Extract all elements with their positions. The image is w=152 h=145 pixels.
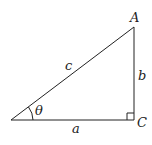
right-triangle-diagram: A C b a c θ [0, 0, 152, 145]
side-label-a: a [72, 121, 80, 136]
side-label-b: b [138, 68, 146, 83]
vertex-label-a: A [129, 10, 139, 25]
triangle [11, 27, 134, 120]
side-c-line [11, 27, 134, 120]
side-label-c: c [65, 58, 73, 73]
angle-theta-arc [29, 107, 34, 120]
angle-label-theta: θ [35, 103, 43, 118]
right-angle-marker [127, 113, 134, 120]
vertex-label-c: C [137, 115, 147, 130]
